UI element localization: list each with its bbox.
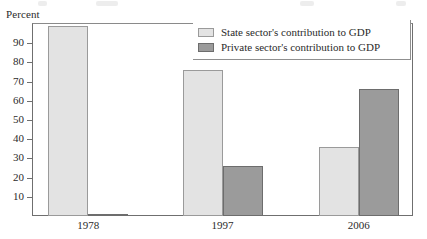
y-axis-label: 80	[0, 56, 24, 67]
scan-artifact	[96, 1, 118, 6]
bar-chart: Percent 908070605040302010 197819972006 …	[0, 0, 427, 239]
y-axis-label: 50	[0, 114, 24, 125]
legend-item-state: State sector's contribution to GDP	[198, 25, 406, 39]
bar-private-1997	[223, 166, 263, 216]
y-axis-label: 10	[0, 191, 24, 202]
bar-private-2006	[359, 89, 399, 216]
x-axis-label-1978: 1978	[48, 219, 128, 231]
x-axis-label-2006: 2006	[319, 219, 399, 231]
scan-artifact	[300, 1, 314, 6]
bar-private-1978	[88, 214, 128, 217]
y-axis-label: 40	[0, 133, 24, 144]
y-axis-label: 60	[0, 95, 24, 106]
y-axis-label: 30	[0, 152, 24, 163]
x-axis-label-1997: 1997	[183, 219, 263, 231]
y-axis-label: 20	[0, 172, 24, 183]
bar-state-1978	[48, 26, 88, 216]
chart-legend: State sector's contribution to GDP Priva…	[193, 20, 411, 60]
y-axis-label: 90	[0, 37, 24, 48]
legend-label-private: Private sector's contribution to GDP	[221, 41, 380, 53]
y-axis-title: Percent	[6, 8, 40, 20]
y-axis-label: 70	[0, 76, 24, 87]
scan-artifact	[396, 1, 406, 6]
legend-swatch-state-icon	[198, 28, 214, 37]
legend-item-private: Private sector's contribution to GDP	[198, 40, 406, 54]
bar-state-1997	[183, 70, 223, 216]
bar-state-2006	[319, 147, 359, 216]
legend-swatch-private-icon	[198, 43, 214, 52]
legend-label-state: State sector's contribution to GDP	[221, 26, 371, 38]
scan-artifact	[38, 1, 47, 6]
